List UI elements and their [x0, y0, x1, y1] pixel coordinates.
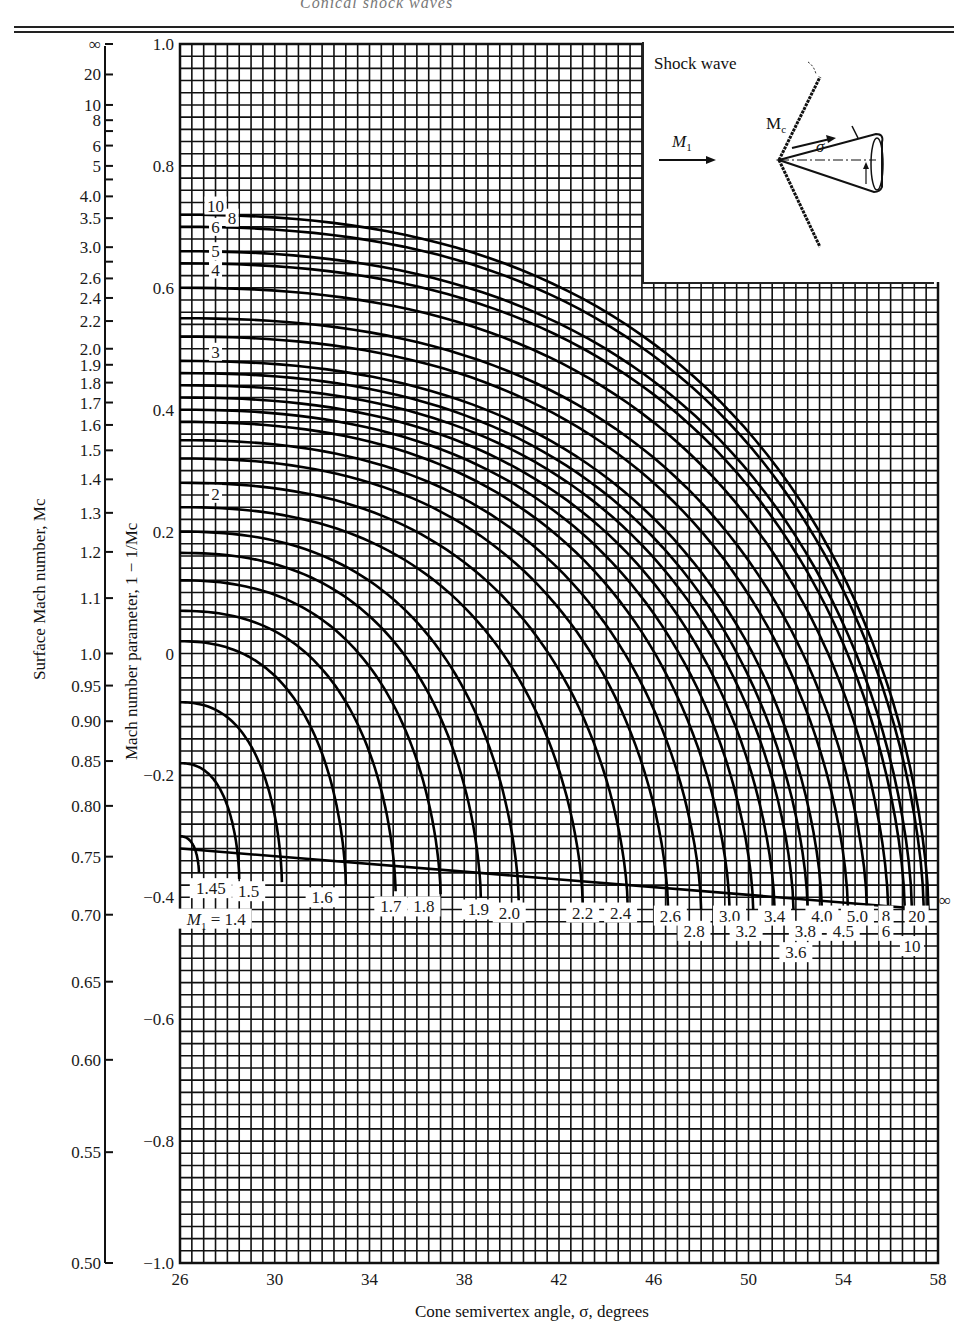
x-axis-label: Cone semivertex angle, σ, degrees — [415, 1302, 649, 1322]
cone-diagram — [644, 42, 934, 282]
svg-text:4: 4 — [211, 261, 220, 280]
svg-text:1.8: 1.8 — [413, 897, 434, 916]
svg-text:3: 3 — [211, 343, 220, 362]
svg-text:1.45: 1.45 — [196, 879, 226, 898]
svg-text:1.8: 1.8 — [80, 374, 101, 393]
svg-text:34: 34 — [361, 1270, 379, 1289]
svg-text:0.50: 0.50 — [71, 1254, 101, 1273]
svg-text:1.4: 1.4 — [80, 470, 102, 489]
primary-y-axis-label: Mach number parameter, 1 − 1/Mc — [122, 523, 142, 760]
svg-text:3.4: 3.4 — [764, 907, 786, 926]
svg-text:2.2: 2.2 — [80, 312, 101, 331]
surface-mach-label: Mc — [766, 114, 786, 135]
svg-text:1.9: 1.9 — [468, 900, 489, 919]
svg-text:1.3: 1.3 — [80, 504, 101, 523]
svg-text:1.5: 1.5 — [238, 882, 259, 901]
svg-text:3.5: 3.5 — [80, 209, 101, 228]
svg-text:0.80: 0.80 — [71, 797, 101, 816]
svg-text:58: 58 — [930, 1270, 947, 1289]
svg-text:1.1: 1.1 — [80, 589, 101, 608]
curves — [180, 215, 929, 910]
svg-text:2.8: 2.8 — [683, 922, 704, 941]
svg-text:8: 8 — [228, 209, 237, 228]
svg-text:2: 2 — [211, 485, 220, 504]
svg-text:10: 10 — [903, 937, 920, 956]
svg-text:20: 20 — [84, 65, 101, 84]
svg-text:0: 0 — [166, 645, 175, 664]
svg-text:1.0: 1.0 — [80, 645, 101, 664]
svg-text:−1.0: −1.0 — [143, 1254, 174, 1273]
svg-text:1.9: 1.9 — [80, 356, 101, 375]
svg-text:6: 6 — [882, 922, 891, 941]
svg-text:1.7: 1.7 — [80, 394, 102, 413]
svg-text:2.0: 2.0 — [499, 904, 520, 923]
svg-text:3.0: 3.0 — [80, 238, 101, 257]
svg-text:1.5: 1.5 — [80, 441, 101, 460]
svg-text:0.85: 0.85 — [71, 752, 101, 771]
svg-text:3.6: 3.6 — [785, 943, 806, 962]
cone-body — [779, 134, 882, 192]
svg-text:46: 46 — [645, 1270, 662, 1289]
svg-text:0.55: 0.55 — [71, 1143, 101, 1162]
svg-text:8: 8 — [93, 111, 102, 130]
svg-text:1.6: 1.6 — [312, 888, 333, 907]
svg-text:M1 = 1.4: M1 = 1.4 — [186, 910, 247, 932]
shock-wave-label: Shock wave — [654, 54, 737, 74]
svg-text:0.2: 0.2 — [153, 523, 174, 542]
svg-text:−0.8: −0.8 — [143, 1132, 174, 1151]
svg-text:20: 20 — [908, 907, 925, 926]
svg-text:10: 10 — [207, 197, 224, 216]
curve-labels: 10865432M1 = 1.41.451.51.61.71.81.92.02.… — [174, 197, 951, 963]
svg-text:0.70: 0.70 — [71, 906, 101, 925]
svg-text:50: 50 — [740, 1270, 757, 1289]
svg-text:1.2: 1.2 — [80, 543, 101, 562]
svg-text:6: 6 — [93, 137, 102, 156]
freestream-mach-label: M1 — [672, 132, 692, 153]
svg-text:0.8: 0.8 — [153, 157, 174, 176]
svg-text:−0.2: −0.2 — [143, 766, 174, 785]
svg-text:5: 5 — [93, 157, 102, 176]
svg-text:4.0: 4.0 — [80, 187, 101, 206]
svg-text:2.4: 2.4 — [610, 904, 632, 923]
svg-text:2.4: 2.4 — [80, 289, 102, 308]
svg-text:30: 30 — [266, 1270, 283, 1289]
svg-text:54: 54 — [835, 1270, 853, 1289]
inset-diagram: Shock wave M1 Mc σ — [642, 42, 934, 284]
svg-text:0.90: 0.90 — [71, 712, 101, 731]
svg-text:∞: ∞ — [939, 891, 951, 910]
svg-text:1.6: 1.6 — [80, 416, 101, 435]
svg-text:26: 26 — [172, 1270, 189, 1289]
svg-text:0.75: 0.75 — [71, 848, 101, 867]
svg-text:1.0: 1.0 — [153, 35, 174, 54]
svg-text:38: 38 — [456, 1270, 473, 1289]
svg-text:3.2: 3.2 — [736, 922, 757, 941]
svg-text:5: 5 — [211, 242, 220, 261]
svg-text:−0.4: −0.4 — [143, 888, 174, 907]
svg-text:0.60: 0.60 — [71, 1051, 101, 1070]
secondary-y-axis-label: Surface Mach number, Mc — [30, 498, 50, 680]
svg-text:6: 6 — [211, 218, 220, 237]
svg-text:∞: ∞ — [89, 35, 101, 54]
svg-text:−0.6: −0.6 — [143, 1010, 174, 1029]
shock-wave-lower — [779, 160, 820, 247]
svg-text:2.2: 2.2 — [572, 904, 593, 923]
cone-angle-label: σ — [816, 137, 824, 157]
svg-text:5.0: 5.0 — [847, 907, 868, 926]
svg-text:1.7: 1.7 — [380, 897, 402, 916]
svg-text:0.65: 0.65 — [71, 973, 101, 992]
svg-text:2.6: 2.6 — [80, 269, 101, 288]
svg-text:0.4: 0.4 — [153, 401, 175, 420]
svg-text:0.95: 0.95 — [71, 677, 101, 696]
svg-text:0.6: 0.6 — [153, 279, 174, 298]
svg-text:42: 42 — [551, 1270, 568, 1289]
